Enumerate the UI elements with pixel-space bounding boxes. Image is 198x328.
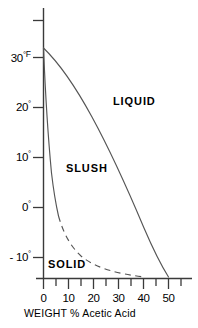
y-axis-ticks xyxy=(33,21,44,258)
x-tick-label-50: 50 xyxy=(162,293,174,305)
region-label-solid: SOLID xyxy=(48,259,86,270)
x-tick-label-40: 40 xyxy=(137,293,149,305)
x-tick-label-10: 10 xyxy=(62,293,74,305)
y-tick-label-30: 30°F xyxy=(0,50,31,64)
y-tick-label-minus-10: - 10° xyxy=(0,250,31,263)
region-label-liquid: LIQUID xyxy=(113,96,156,107)
x-axis-ticks xyxy=(44,279,182,290)
x-tick-label-20: 20 xyxy=(87,293,99,305)
fahrenheit-symbol: F xyxy=(26,49,31,59)
y-tick-label-10: 10° xyxy=(0,150,31,163)
freezing-curve-solid xyxy=(44,48,59,216)
x-tick-label-30: 30 xyxy=(112,293,124,305)
region-label-slush: SLUSH xyxy=(66,163,108,174)
x-tick-label-0: 0 xyxy=(40,293,46,305)
phase-diagram-chart: 30°F 20° 10° 0° - 10° 0 10 20 30 40 50 W… xyxy=(0,0,198,328)
y-tick-label-20: 20° xyxy=(0,100,31,113)
y-tick-label-0: 0° xyxy=(0,200,31,213)
x-axis-title: WEIGHT % Acetic Acid xyxy=(24,308,136,319)
